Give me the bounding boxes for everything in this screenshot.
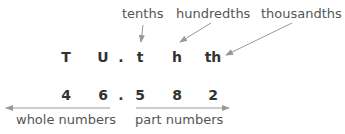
hundredths-label: hundredths [176, 7, 250, 20]
thousandths-label: thousandths [261, 7, 342, 20]
header-decimal-point: . [118, 50, 123, 64]
digit-tenths: 5 [135, 88, 145, 102]
digit-thousandths: 2 [208, 88, 218, 102]
tenths-arrow [141, 25, 143, 42]
header-units: U [97, 50, 108, 64]
hundredths-arrow [180, 23, 211, 42]
digit-units: 6 [98, 88, 108, 102]
digit-tens: 4 [61, 88, 71, 102]
header-tenths: t [137, 50, 144, 64]
digit-decimal-point: . [118, 88, 123, 102]
whole-numbers-label: whole numbers [16, 113, 116, 126]
digit-hundredths: 8 [172, 88, 182, 102]
thousandths-arrow [226, 23, 292, 55]
header-tens: T [61, 50, 71, 64]
header-thousandths: th [205, 50, 222, 64]
header-hundredths: h [172, 50, 182, 64]
tenths-label: tenths [122, 7, 163, 20]
part-numbers-label: part numbers [135, 113, 223, 126]
